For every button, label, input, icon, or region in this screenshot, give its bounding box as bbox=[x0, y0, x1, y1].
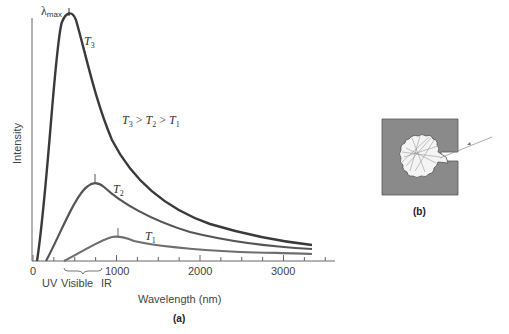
x-tick-0: 0 bbox=[30, 265, 36, 277]
t2-label: T2 bbox=[113, 182, 124, 198]
x-tick-3000: 3000 bbox=[271, 265, 295, 277]
temperature-relation: T3 > T2 > T1 bbox=[122, 113, 180, 129]
x-tick-2000: 2000 bbox=[188, 265, 212, 277]
axes bbox=[32, 18, 335, 261]
visible-range-brace bbox=[64, 268, 102, 274]
figure: 0 1000 2000 3000 UV Visible IR Wavelengt… bbox=[0, 0, 509, 334]
curve-t3 bbox=[37, 13, 312, 261]
lambda-max-label: λmax bbox=[41, 4, 62, 19]
blackbody-cavity-diagram bbox=[382, 119, 492, 195]
ir-label: IR bbox=[101, 277, 112, 289]
x-tick-1000: 1000 bbox=[105, 265, 129, 277]
t3-label: T3 bbox=[84, 34, 95, 50]
x-ticks bbox=[33, 255, 325, 261]
visible-label: Visible bbox=[61, 277, 93, 289]
uv-label: UV bbox=[42, 277, 58, 289]
x-axis-label: Wavelength (nm) bbox=[138, 293, 221, 305]
panel-a-label: (a) bbox=[173, 313, 185, 324]
ray-arrowhead bbox=[467, 142, 471, 145]
y-axis-label: Intensity bbox=[11, 123, 23, 164]
panel-b-label: (b) bbox=[413, 206, 426, 217]
t1-label: T1 bbox=[145, 229, 156, 245]
